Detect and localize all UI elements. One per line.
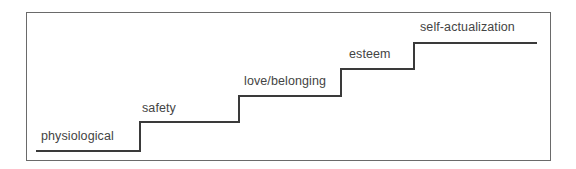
- step-label-love-belonging: love/belonging: [244, 75, 326, 88]
- step-label-physiological: physiological: [41, 130, 114, 143]
- step-label-esteem: esteem: [349, 48, 391, 61]
- step-label-self-actualization: self-actualization: [420, 21, 515, 34]
- step-label-safety: safety: [142, 102, 176, 115]
